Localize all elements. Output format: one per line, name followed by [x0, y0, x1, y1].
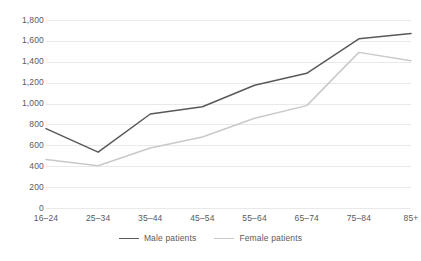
- series-layer: [46, 20, 411, 208]
- legend-line-icon: [214, 238, 234, 239]
- y-tick-label: 1,600: [2, 36, 44, 45]
- chart-legend: Male patientsFemale patients: [0, 234, 421, 243]
- series-line-female-patients: [46, 52, 411, 165]
- x-tick-label: 65–74: [295, 214, 319, 223]
- x-tick-label: 55–64: [242, 214, 266, 223]
- legend-item-female-patients[interactable]: Female patients: [214, 234, 302, 243]
- y-tick-label: 200: [2, 183, 44, 192]
- y-tick-label: 800: [2, 120, 44, 129]
- y-tick-label: 1,200: [2, 78, 44, 87]
- legend-line-icon: [119, 238, 139, 239]
- legend-label: Female patients: [239, 234, 302, 243]
- x-tick-label: 25–34: [86, 214, 110, 223]
- legend-label: Male patients: [144, 234, 197, 243]
- x-tick-label: 16–24: [34, 214, 58, 223]
- legend-item-male-patients[interactable]: Male patients: [119, 234, 197, 243]
- x-tick-label: 45–54: [190, 214, 214, 223]
- y-tick-label: 400: [2, 162, 44, 171]
- y-tick-label: 1,000: [2, 99, 44, 108]
- plot-area: [46, 20, 411, 208]
- series-line-male-patients: [46, 34, 411, 153]
- y-tick-label: 600: [2, 141, 44, 150]
- y-tick-label: 0: [2, 204, 44, 213]
- x-axis: 16–2425–3435–4445–5455–6465–7475–8485+: [46, 214, 411, 228]
- x-tick-label: 35–44: [138, 214, 162, 223]
- y-tick-label: 1,400: [2, 57, 44, 66]
- gridline: [46, 208, 411, 209]
- y-axis: 02004006008001,0001,2001,4001,6001,800: [0, 20, 44, 208]
- x-tick-label: 85+: [404, 214, 419, 223]
- x-tick-label: 75–84: [347, 214, 371, 223]
- y-tick-label: 1,800: [2, 16, 44, 25]
- line-chart: 02004006008001,0001,2001,4001,6001,800 1…: [0, 0, 421, 261]
